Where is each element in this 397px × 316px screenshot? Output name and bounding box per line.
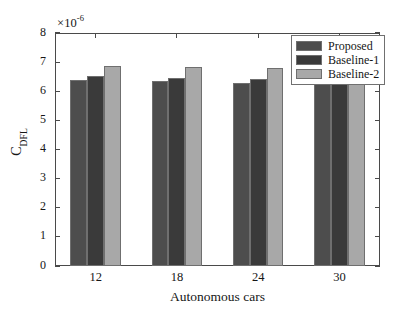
y-axis-tick-mark [55, 91, 60, 92]
y-axis-tick-mark [55, 32, 60, 33]
legend-swatch [296, 55, 322, 65]
x-axis-tick-label: 18 [155, 270, 199, 285]
x-axis-tick-mark [176, 261, 177, 266]
legend-label: Baseline-1 [328, 54, 379, 66]
y-axis-tick-label: 7 [40, 54, 46, 69]
x-axis-tick-mark-top [95, 33, 96, 38]
y-axis-exponent-base: ×10 [57, 16, 77, 30]
y-axis-tick-label: 4 [40, 141, 46, 156]
y-axis-title-base: C [9, 147, 24, 156]
y-axis-tick-mark [55, 265, 60, 266]
y-axis-title-subscript: DFL [19, 128, 29, 147]
y-axis-tick-mark-right [375, 178, 380, 179]
bar-chart-figure: ×10-6 CDFL 012345678 12182430 Autonomous… [0, 0, 397, 316]
y-axis-tick-mark [55, 236, 60, 237]
y-axis-tick-mark [55, 178, 60, 179]
y-axis-tick-mark-right [375, 207, 380, 208]
y-axis-tick-mark [55, 120, 60, 121]
legend-item: Proposed [296, 39, 379, 53]
x-axis-tick-mark-top [176, 33, 177, 38]
x-axis-tick-mark [95, 261, 96, 266]
y-axis-tick-mark [55, 207, 60, 208]
y-axis-tick-mark-right [375, 120, 380, 121]
chart-legend: ProposedBaseline-1Baseline-2 [291, 35, 385, 85]
x-axis-tick-mark [258, 261, 259, 266]
y-axis-tick-label: 3 [40, 170, 46, 185]
x-axis-tick-label: 12 [74, 270, 118, 285]
legend-item: Baseline-2 [296, 67, 379, 81]
y-axis-tick-label: 6 [40, 83, 46, 98]
y-axis-tick-mark [55, 62, 60, 63]
y-axis-tick-mark-right [375, 32, 380, 33]
y-axis-tick-label: 8 [40, 25, 46, 40]
x-axis-tick-label: 30 [317, 270, 361, 285]
y-axis-tick-label: 1 [40, 228, 46, 243]
y-axis-title: CDFL [9, 82, 27, 202]
y-axis-tick-mark-right [375, 236, 380, 237]
y-axis-tick-mark-right [375, 91, 380, 92]
x-axis-tick-label: 24 [236, 270, 280, 285]
y-axis-tick-label: 5 [40, 112, 46, 127]
legend-label: Proposed [328, 40, 373, 52]
legend-swatch [296, 41, 322, 51]
y-axis-tick-label: 2 [40, 199, 46, 214]
x-axis-title: Autonomous cars [55, 289, 380, 305]
y-axis-tick-label: 0 [40, 258, 46, 273]
y-axis-exponent-label: ×10-6 [57, 14, 84, 31]
legend-item: Baseline-1 [296, 53, 379, 67]
y-axis-tick-mark-right [375, 149, 380, 150]
x-axis-tick-mark-top [258, 33, 259, 38]
y-axis-tick-mark [55, 149, 60, 150]
y-axis-tick-mark-right [375, 265, 380, 266]
legend-swatch [296, 69, 322, 79]
legend-label: Baseline-2 [328, 68, 379, 80]
x-axis-tick-mark [339, 261, 340, 266]
y-axis-exponent-power: -6 [77, 13, 84, 23]
